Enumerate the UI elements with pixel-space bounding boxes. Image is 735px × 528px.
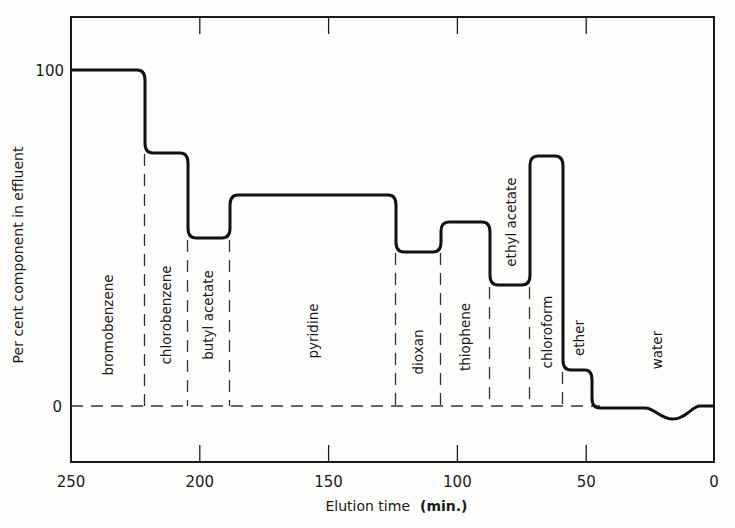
- y-tick-0: 0: [52, 398, 62, 416]
- effluent-curve: [71, 70, 714, 419]
- x-axis-unit: (min.): [420, 498, 467, 514]
- x-tick-150: 150: [314, 473, 343, 491]
- region-label-butyl-acetate: butyl acetate: [200, 270, 216, 360]
- region-label-bromobenzene: bromobenzene: [100, 274, 116, 375]
- y-tick-100: 100: [35, 62, 64, 80]
- elution-chart: 100 0 250 200 150 100 50 0 Per cent comp…: [0, 0, 735, 528]
- plot-frame: [71, 17, 714, 462]
- x-tick-50: 50: [577, 473, 596, 491]
- bottom-ticks: [200, 445, 586, 462]
- x-tick-200: 200: [185, 473, 214, 491]
- region-label-chlorobenzene: chlorobenzene: [158, 265, 174, 364]
- top-ticks: [200, 17, 586, 34]
- region-label-water: water: [649, 330, 665, 369]
- x-tick-250: 250: [57, 473, 86, 491]
- x-tick-0: 0: [709, 473, 719, 491]
- x-tick-100: 100: [443, 473, 472, 491]
- region-label-chloroform: chloroform: [539, 296, 555, 369]
- x-axis-title: Elution time: [325, 498, 410, 514]
- region-label-ethyl-acetate: ethyl acetate: [503, 177, 519, 266]
- region-label-pyridine: pyridine: [305, 303, 321, 358]
- region-label-dioxan: dioxan: [410, 330, 426, 375]
- region-label-ether: ether: [571, 320, 587, 356]
- region-label-thiophene: thiophene: [457, 303, 473, 371]
- y-axis-title: Per cent component in effluent: [10, 146, 26, 363]
